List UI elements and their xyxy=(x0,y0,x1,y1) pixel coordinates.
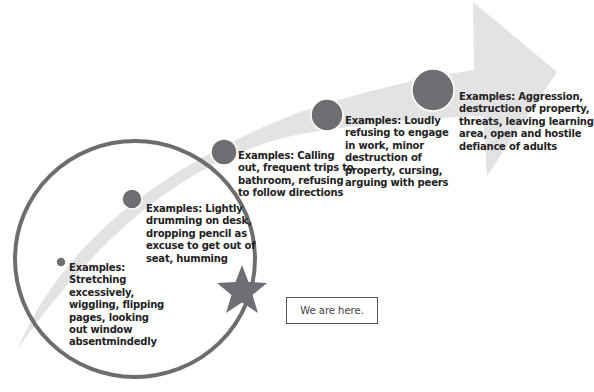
label-line: Examples: Calling xyxy=(238,150,354,162)
label-line: wiggling, flipping xyxy=(69,299,164,311)
stage-2-label: Examples: Lightly drumming on desk, drop… xyxy=(146,203,255,265)
label-line: refusing to engage xyxy=(345,127,449,139)
label-line: pages, looking xyxy=(69,312,164,324)
stage-1-dot xyxy=(56,257,66,267)
label-line: threats, leaving learning xyxy=(459,116,594,128)
label-line: dropping pencil as xyxy=(146,228,255,240)
label-line: arguing with peers xyxy=(345,177,449,189)
label-line: destruction of xyxy=(345,152,449,164)
label-line: in work, minor xyxy=(345,140,449,152)
callout-text: We are here. xyxy=(300,305,364,316)
stage-3-dot xyxy=(211,139,237,165)
star-icon xyxy=(217,265,267,313)
label-line: excessively, xyxy=(69,287,164,299)
label-line: area, open and hostile xyxy=(459,128,594,140)
label-line: excuse to get out of xyxy=(146,240,255,252)
stage-2-dot xyxy=(122,189,142,209)
label-line: drumming on desk, xyxy=(146,215,255,227)
stage-4-dot xyxy=(311,99,343,131)
label-line: Examples: Lightly xyxy=(146,203,255,215)
label-line: to follow directions xyxy=(238,187,354,199)
label-line: out, frequent trips to xyxy=(238,162,354,174)
label-line: Examples: Loudly xyxy=(345,115,449,127)
label-line: Stretching xyxy=(69,274,164,286)
stage-5-dot xyxy=(412,69,454,111)
label-line: bathroom, refusing xyxy=(238,175,354,187)
label-line: Examples: Aggression, xyxy=(459,91,594,103)
label-line: defiance of adults xyxy=(459,141,594,153)
label-line: destruction of property, xyxy=(459,103,594,115)
stage-1-label: Examples: Stretching excessively, wiggli… xyxy=(69,262,164,349)
stage-5-label: Examples: Aggression, destruction of pro… xyxy=(459,91,594,153)
stage-4-label: Examples: Loudly refusing to engage in w… xyxy=(345,115,449,189)
stage-3-label: Examples: Calling out, frequent trips to… xyxy=(238,150,354,200)
label-line: out window xyxy=(69,324,164,336)
we-are-here-callout: We are here. xyxy=(286,297,378,324)
label-line: property, cursing, xyxy=(345,165,449,177)
label-line: seat, humming xyxy=(146,253,255,265)
label-line: absentmindedly xyxy=(69,336,164,348)
